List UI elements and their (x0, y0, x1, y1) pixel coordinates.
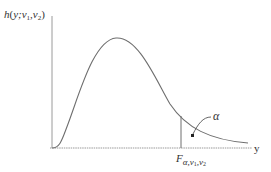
critical-value-label: Fα,v1,v2 (175, 152, 206, 167)
y-axis-label: h(y;v1,v2) (4, 8, 45, 22)
f-distribution-diagram: h(y;v1,v2) y α Fα,v1,v2 (0, 0, 271, 172)
density-curve (52, 38, 248, 148)
alpha-area-dot (191, 134, 194, 137)
alpha-label: α (213, 109, 220, 123)
x-axis-label: y (254, 142, 260, 154)
